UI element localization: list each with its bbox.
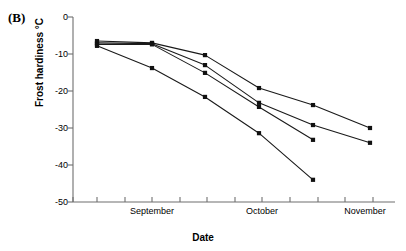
series xyxy=(95,41,372,145)
series-layer xyxy=(95,39,372,182)
data-point-marker xyxy=(311,138,315,142)
data-point-marker xyxy=(368,141,372,145)
data-point-marker xyxy=(257,101,261,105)
series xyxy=(95,42,315,142)
data-point-marker xyxy=(311,123,315,127)
data-point-marker xyxy=(257,105,261,109)
data-point-marker xyxy=(311,103,315,107)
data-point-marker xyxy=(257,86,261,90)
y-tick-marks xyxy=(68,17,73,202)
data-point-marker xyxy=(150,66,154,70)
frost-hardiness-chart-figure: (B) Frost hardiness °C Date 0 -10 -20 -3… xyxy=(0,0,406,251)
data-point-marker xyxy=(203,95,207,99)
data-point-marker xyxy=(203,53,207,57)
x-tick-marks xyxy=(73,197,373,202)
data-point-marker xyxy=(368,126,372,130)
data-point-marker xyxy=(257,131,261,135)
series-line xyxy=(97,43,370,143)
data-point-marker xyxy=(311,178,315,182)
data-point-marker xyxy=(203,63,207,67)
data-point-marker xyxy=(203,71,207,75)
data-point-marker xyxy=(150,42,154,46)
plot-area xyxy=(0,0,406,251)
data-point-marker xyxy=(95,44,99,48)
